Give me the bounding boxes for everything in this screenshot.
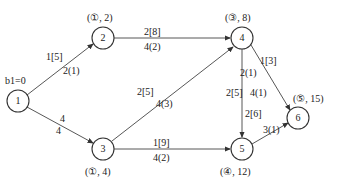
edge-4-5-right: 4(1) [250,88,267,98]
node-3-mark: (①, 4) [85,167,111,177]
edge-5-6-top: 2[6] [245,109,262,119]
edge-3-5-bottom: 4(2) [153,153,170,163]
edge-1-2-top: 1[5] [46,52,63,62]
edge-5-6-bottom: 3(1) [263,125,280,135]
edge-3-4-top: 2[5] [137,87,154,97]
node-5-label: 5 [232,144,252,154]
edge-2-4-top: 2[8] [144,27,161,37]
edge-4-5-left: 2[5] [226,88,243,98]
edge-2-4-bottom: 4(2) [144,42,161,52]
node-2-label: 2 [93,33,113,43]
edge-1-3-bottom: 4 [56,126,61,136]
edge-3-4-bottom: 4(3) [156,99,173,109]
edge-4-6-bottom: 2(1) [240,68,257,78]
edge-4-6-top: 1[3] [260,56,277,66]
edge-3-4 [112,47,233,141]
node-4-label: 4 [232,33,252,43]
node-1-label: 1 [8,96,28,106]
node-4-mark: (③, 8) [225,13,251,23]
edge-1-3-top: 4 [60,114,65,124]
node-2-mark: (①, 2) [87,13,113,23]
node-3-label: 3 [93,144,113,154]
node-5-mark: (④, 12) [220,167,251,177]
edge-1-2-bottom: 2(1) [63,66,80,76]
node-6-mark: (⑤, 15) [293,94,324,104]
node-6-label: 6 [288,113,308,123]
start-label: b1=0 [5,76,26,86]
edge-3-5-top: 1[9] [153,138,170,148]
